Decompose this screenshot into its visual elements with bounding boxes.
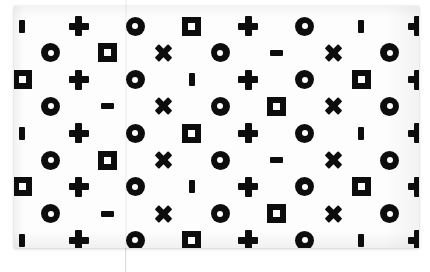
square-hole [104, 157, 111, 164]
plus-vertical-stroke [245, 70, 252, 90]
symbol-vertical-bar-symbol-r9c7 [358, 234, 364, 247]
symbol-donut-circle-symbol-r8c5 [211, 204, 230, 223]
square-hole [273, 210, 280, 217]
plus-vertical-stroke [245, 230, 252, 248]
symbol-donut-circle-symbol-r3c3 [126, 70, 145, 89]
square-hole [188, 23, 195, 30]
square-hole [19, 183, 26, 190]
symbol-donut-circle-symbol-r2c8 [380, 43, 399, 62]
circle-hole [132, 237, 138, 243]
circle-hole [302, 23, 308, 29]
symbol-donut-circle-symbol-r6c5 [211, 151, 230, 170]
symbol-donut-circle-symbol-r4c5 [211, 97, 230, 116]
symbol-x-cross-symbol-r2c7 [324, 43, 343, 62]
plus-vertical-stroke [414, 123, 419, 143]
symbol-plus-symbol-r3c8 [408, 70, 420, 90]
symbol-donut-circle-symbol-r5c6 [295, 124, 314, 143]
symbol-holed-square-symbol-r2c3 [98, 43, 117, 62]
fold-crease-line-lower [125, 248, 126, 272]
symbol-plus-symbol-r1c8 [408, 16, 420, 36]
square-hole [104, 49, 111, 56]
symbol-holed-square-symbol-r4c6 [267, 97, 286, 116]
symbol-plus-symbol-r7c5 [238, 177, 258, 197]
symbol-vertical-bar-symbol-r5c1 [19, 127, 25, 140]
symbol-plus-symbol-r5c5 [238, 123, 258, 143]
circle-hole [387, 157, 393, 163]
symbol-x-cross-symbol-r6c7 [324, 151, 343, 170]
circle-hole [217, 103, 223, 109]
symbol-vertical-bar-symbol-r3c4 [189, 73, 195, 86]
square-hole [188, 130, 195, 137]
symbol-donut-circle-symbol-r8c8 [380, 204, 399, 223]
symbol-x-cross-symbol-r4c7 [324, 97, 343, 116]
symbol-donut-circle-symbol-r2c2 [41, 43, 60, 62]
circle-hole [48, 50, 54, 56]
symbol-plus-symbol-r9c8 [408, 230, 420, 248]
circle-hole [132, 23, 138, 29]
symbol-donut-circle-symbol-r9c6 [295, 231, 314, 248]
symbol-plus-symbol-r5c2 [69, 123, 89, 143]
circle-hole [132, 184, 138, 190]
circle-hole [48, 157, 54, 163]
plus-vertical-stroke [245, 123, 252, 143]
symbol-horizontal-dash-symbol-r8c3 [101, 211, 114, 217]
symbol-vertical-bar-symbol-r1c7 [358, 20, 364, 33]
circle-hole [302, 237, 308, 243]
plus-vertical-stroke [414, 230, 419, 248]
symbol-grid [14, 6, 419, 248]
circle-hole [217, 50, 223, 56]
symbol-donut-circle-symbol-r6c2 [41, 151, 60, 170]
symbol-plus-symbol-r1c2 [69, 16, 89, 36]
symbol-x-cross-symbol-r8c7 [324, 204, 343, 223]
symbol-horizontal-dash-symbol-r6c6 [270, 157, 283, 163]
square-hole [19, 76, 26, 83]
symbol-vertical-bar-symbol-r1c1 [19, 20, 25, 33]
symbol-holed-square-symbol-r3c7 [352, 70, 371, 89]
plus-vertical-stroke [75, 177, 82, 197]
symbol-donut-circle-symbol-r1c6 [295, 17, 314, 36]
circle-hole [302, 184, 308, 190]
circle-hole [387, 211, 393, 217]
symbol-vertical-bar-symbol-r9c1 [19, 234, 25, 247]
symbol-donut-circle-symbol-r8c2 [41, 204, 60, 223]
symbol-holed-square-symbol-r9c4 [182, 231, 201, 248]
symbol-plus-symbol-r3c2 [69, 70, 89, 90]
plus-vertical-stroke [245, 177, 252, 197]
square-hole [188, 237, 195, 244]
circle-hole [132, 130, 138, 136]
square-hole [358, 183, 365, 190]
scanned-sheet-photo: Symbol pattern sheet [0, 0, 430, 272]
symbol-holed-square-symbol-r8c6 [267, 204, 286, 223]
symbol-holed-square-symbol-r7c7 [352, 177, 371, 196]
plus-vertical-stroke [414, 16, 419, 36]
symbol-plus-symbol-r9c5 [238, 230, 258, 248]
symbol-donut-circle-symbol-r2c5 [211, 43, 230, 62]
circle-hole [48, 103, 54, 109]
plus-vertical-stroke [414, 70, 419, 90]
symbol-holed-square-symbol-r5c4 [182, 124, 201, 143]
symbol-plus-symbol-r5c8 [408, 123, 420, 143]
circle-hole [217, 211, 223, 217]
symbol-x-cross-symbol-r2c4 [154, 43, 173, 62]
plus-vertical-stroke [245, 16, 252, 36]
symbol-donut-circle-symbol-r1c3 [126, 17, 145, 36]
symbol-holed-square-symbol-r3c1 [14, 70, 32, 89]
symbol-donut-circle-symbol-r4c8 [380, 97, 399, 116]
symbol-donut-circle-symbol-r7c6 [295, 177, 314, 196]
symbol-horizontal-dash-symbol-r2c6 [270, 50, 283, 56]
symbol-plus-symbol-r3c5 [238, 70, 258, 90]
symbol-x-cross-symbol-r4c4 [154, 97, 173, 116]
symbol-donut-circle-symbol-r6c8 [380, 151, 399, 170]
symbol-donut-circle-symbol-r4c2 [41, 97, 60, 116]
circle-hole [48, 211, 54, 217]
circle-hole [132, 77, 138, 83]
symbol-x-cross-symbol-r8c4 [154, 204, 173, 223]
plus-vertical-stroke [75, 123, 82, 143]
plus-vertical-stroke [75, 70, 82, 90]
symbol-vertical-bar-symbol-r5c7 [358, 127, 364, 140]
symbol-holed-square-symbol-r6c3 [98, 151, 117, 170]
circle-hole [387, 103, 393, 109]
symbol-donut-circle-symbol-r7c3 [126, 177, 145, 196]
symbol-donut-circle-symbol-r5c3 [126, 124, 145, 143]
symbol-horizontal-dash-symbol-r4c3 [101, 103, 114, 109]
